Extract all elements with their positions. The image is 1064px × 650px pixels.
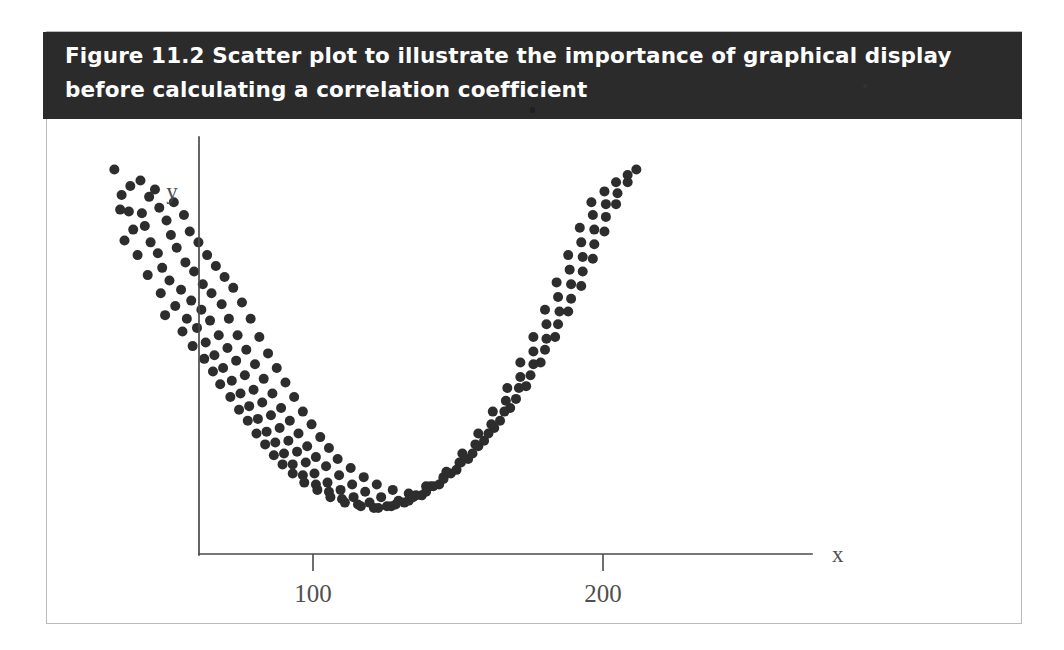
scatter-point — [528, 332, 538, 342]
scatter-point — [209, 350, 219, 360]
scatter-point — [483, 428, 493, 438]
scatter-point — [540, 345, 550, 355]
scatter-point — [260, 439, 270, 449]
scatter-point — [552, 277, 562, 287]
scatter-point — [613, 188, 623, 198]
scatter-point — [501, 396, 511, 406]
scatter-point — [214, 330, 224, 340]
scatter-plot-svg: 100200 x y — [47, 119, 1022, 624]
scatter-point — [225, 392, 235, 402]
scatter-point — [315, 432, 325, 442]
scatter-point — [528, 347, 538, 357]
scatter-point — [565, 265, 575, 275]
scatter-point — [220, 272, 230, 282]
scatter-point — [162, 216, 172, 226]
scatter-point — [563, 250, 573, 260]
scatter-point — [207, 288, 217, 298]
scatter-point — [526, 370, 536, 380]
scatter-point — [188, 341, 198, 351]
scatter-point — [578, 252, 588, 262]
scatter-point — [117, 190, 127, 200]
scatter-point — [324, 443, 334, 453]
scatter-point — [182, 314, 192, 324]
scatter-points-group — [109, 165, 641, 514]
scatter-point — [257, 398, 267, 408]
scatter-point — [292, 447, 302, 457]
scatter-point — [563, 307, 573, 317]
scatter-point — [340, 498, 350, 508]
x-axis-label: x — [832, 542, 844, 567]
scatter-point — [205, 316, 215, 326]
scatter-point — [262, 427, 272, 437]
scatter-point — [347, 479, 357, 489]
scatter-point — [298, 407, 308, 417]
scatter-point — [575, 223, 585, 233]
scatter-point — [528, 359, 538, 369]
figure-caption-text: Figure 11.2 Scatter plot to illustrate t… — [65, 39, 1005, 107]
scatter-point — [120, 236, 130, 246]
scatter-point — [301, 458, 311, 468]
scatter-point — [157, 263, 167, 273]
scatter-point — [502, 383, 512, 393]
scatter-point — [233, 330, 243, 340]
scatter-point — [553, 319, 563, 329]
scatter-point — [283, 436, 293, 446]
scatter-point — [178, 327, 188, 337]
scatter-point — [334, 470, 344, 480]
scatter-point — [154, 203, 164, 213]
scatter-point — [109, 165, 119, 175]
scatter-point — [541, 319, 551, 329]
scatter-point — [189, 266, 199, 276]
scatter-point — [288, 469, 298, 479]
scatter-point — [278, 459, 288, 469]
scatter-point — [588, 254, 598, 264]
scatter-point — [202, 250, 212, 260]
scatter-plot-area: 100200 x y — [47, 119, 1022, 624]
scatter-point — [325, 492, 335, 502]
scatter-point — [359, 472, 369, 482]
scatter-point — [309, 469, 319, 479]
scatter-point — [196, 305, 206, 315]
scatter-point — [211, 261, 221, 271]
scatter-point — [208, 367, 218, 377]
scatter-point — [179, 210, 189, 220]
scatter-point — [372, 479, 382, 489]
scatter-point — [246, 314, 256, 324]
scatter-point — [263, 348, 273, 358]
scatter-point — [294, 428, 304, 438]
scatter-point — [270, 438, 280, 448]
scatter-point — [288, 459, 298, 469]
scatter-point — [124, 206, 134, 216]
scatter-point — [150, 185, 160, 195]
scatter-point — [280, 378, 290, 388]
scatter-point — [553, 292, 563, 302]
scatter-point — [164, 276, 174, 286]
scatter-point — [241, 345, 251, 355]
scatter-point — [243, 416, 253, 426]
scatter-point — [201, 337, 211, 347]
scatter-point — [186, 296, 196, 306]
scatter-point — [228, 283, 238, 293]
scatter-point — [631, 165, 641, 175]
scatter-point — [486, 419, 496, 429]
scatter-point — [588, 210, 598, 220]
scatter-point — [388, 485, 398, 495]
scatter-point — [601, 212, 611, 222]
scatter-point — [514, 383, 524, 393]
scatter-point — [457, 448, 467, 458]
y-axis-label: y — [166, 179, 178, 204]
scatter-point — [586, 197, 596, 207]
scatter-point — [454, 458, 464, 468]
scatter-point — [576, 281, 586, 291]
scatter-point — [172, 243, 182, 253]
scatter-point — [146, 237, 156, 247]
x-axis-tick-label: 200 — [584, 580, 622, 607]
scatter-point — [259, 374, 269, 384]
scatter-point — [240, 370, 250, 380]
x-axis-tick-label: 100 — [294, 580, 332, 607]
scatter-point — [373, 503, 383, 513]
scatter-point — [599, 226, 609, 236]
scatter-point — [566, 294, 576, 304]
scatter-point — [272, 363, 282, 373]
scatter-point — [336, 485, 346, 495]
